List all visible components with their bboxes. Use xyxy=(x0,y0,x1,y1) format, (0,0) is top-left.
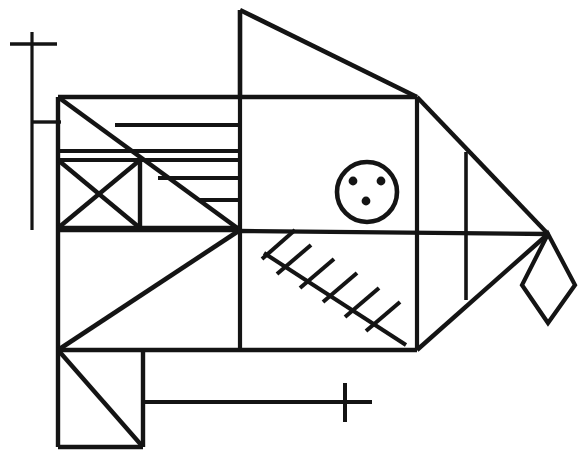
drawing-canvas: Abstract geometric fish line drawing xyxy=(0,0,583,458)
eye-dot-bottom xyxy=(362,197,371,206)
eye-dot-left xyxy=(349,177,358,186)
eye-dot-right xyxy=(377,177,386,186)
body-mid-spine xyxy=(240,231,548,234)
fish-line-drawing xyxy=(0,0,583,458)
